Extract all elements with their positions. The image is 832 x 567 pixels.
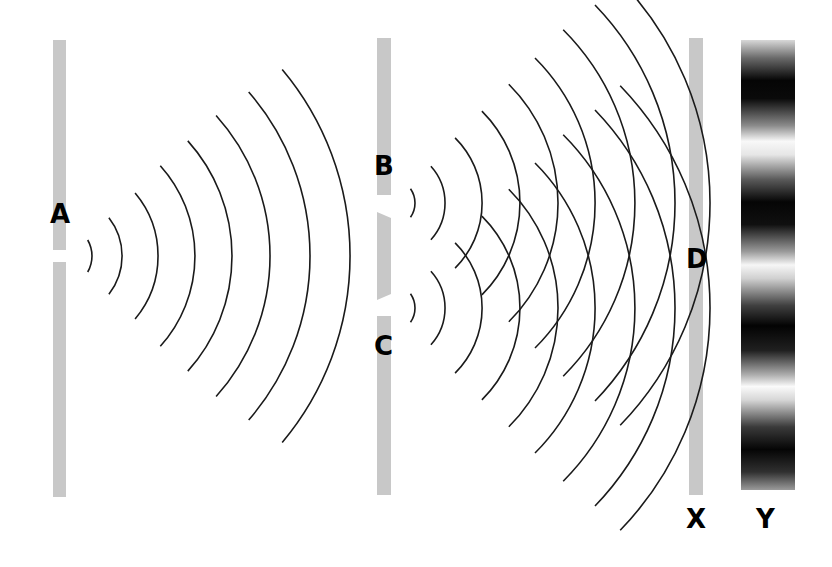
- wavefront-arc: [411, 294, 415, 323]
- wavefronts-from-b: [411, 0, 711, 425]
- wavefront-arc: [563, 30, 635, 376]
- double-slit-barrier: [377, 38, 391, 495]
- wavefront-arc: [411, 189, 415, 218]
- wavefront-arc: [563, 135, 635, 481]
- wavefront-arc: [535, 58, 595, 348]
- wavefront-arc: [535, 163, 595, 453]
- wavefront-arc: [249, 92, 310, 420]
- wavefront-arc: [431, 271, 445, 345]
- wavefront-arc: [509, 189, 558, 427]
- wavefront-arc: [455, 243, 482, 373]
- wavefronts-from-c: [411, 86, 711, 531]
- single-slit-barrier: [53, 40, 66, 497]
- label-x: X: [686, 506, 706, 532]
- interference-pattern-y: [741, 40, 795, 490]
- wavefront-arc: [431, 166, 445, 240]
- wavefront-arc: [88, 240, 92, 272]
- label-y: Y: [756, 506, 775, 532]
- label-d: D: [686, 246, 708, 272]
- wavefront-arc: [216, 116, 270, 397]
- label-c: C: [374, 333, 393, 359]
- wavefront-arc: [160, 166, 195, 347]
- wavefront-arc: [455, 138, 482, 268]
- label-b: B: [374, 153, 394, 179]
- wavefront-arc: [135, 193, 158, 319]
- wavefront-arc: [509, 84, 558, 322]
- wavefronts-from-a: [88, 70, 350, 443]
- wavefront-arc: [109, 218, 122, 294]
- label-a: A: [50, 201, 70, 227]
- wavefront-arc: [282, 70, 350, 443]
- double-slit-diagram: [0, 0, 832, 567]
